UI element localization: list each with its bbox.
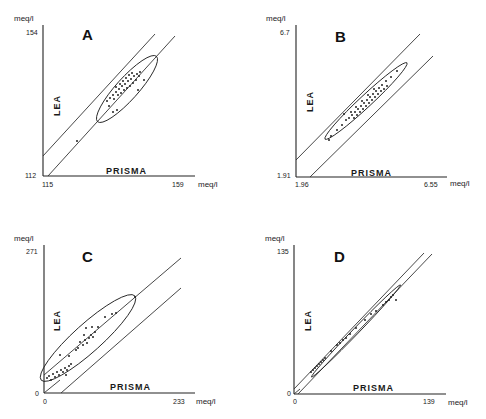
panel-d: meq/l 135 0 0 139 meq/l D PRISMA LEA — [265, 234, 468, 407]
panel-a: meq/l 154 112 115 159 meq/l A PRISMA LEA — [14, 14, 218, 189]
panel-b-x-max: 6.55 — [424, 181, 438, 188]
panel-d-x-unit: meq/l — [448, 398, 468, 407]
panel-b-letter: B — [335, 28, 346, 45]
panel-c-points — [46, 296, 136, 381]
panel-b: meq/l 6.7 1.91 1.96 6.55 meq/l B PRISMA … — [266, 14, 470, 188]
panel-a-y-unit: meq/l — [14, 14, 34, 23]
panel-d-y-unit: meq/l — [265, 234, 285, 243]
panel-a-y-min: 112 — [25, 172, 36, 179]
panel-b-y-label: LEA — [305, 91, 315, 112]
panel-a-x-max: 159 — [172, 181, 184, 188]
panel-b-x-min: 1.96 — [295, 181, 309, 188]
panel-a-x-label: PRISMA — [106, 166, 147, 176]
panel-a-upper-limit-line — [43, 34, 155, 156]
panel-c: meq/l 271 0 0 233 meq/l C PRISMA LEA — [14, 234, 216, 406]
figure-canvas: meq/l 154 112 115 159 meq/l A PRISMA LEA — [0, 0, 486, 419]
panel-c-y-label: LEA — [52, 310, 62, 331]
panel-d-x-label: PRISMA — [353, 383, 394, 393]
panel-c-x-min: 0 — [43, 398, 47, 405]
panel-a-x-min: 115 — [42, 181, 53, 188]
panel-b-y-max: 6.7 — [280, 29, 290, 36]
panel-a-lower-limit-line — [48, 36, 175, 176]
panel-d-x-min: 0 — [293, 398, 297, 405]
panel-d-upper-limit-line — [294, 253, 424, 389]
panel-c-upper-limit-line — [44, 258, 181, 375]
panel-a-y-label: LEA — [52, 95, 62, 116]
panel-c-y-min: 0 — [35, 390, 39, 397]
panel-c-x-unit: meq/l — [196, 397, 216, 406]
panel-c-y-max: 271 — [26, 248, 38, 255]
panel-c-origin-segment — [44, 380, 60, 393]
panel-a-letter: A — [82, 26, 93, 43]
panel-b-points — [328, 70, 398, 141]
panel-c-y-unit: meq/l — [14, 234, 34, 243]
panel-c-x-label: PRISMA — [110, 382, 151, 392]
panel-c-lower-limit-line — [61, 288, 181, 393]
panel-d-ellipse — [309, 283, 402, 379]
panel-a-x-unit: meq/l — [198, 180, 218, 189]
panel-d-x-max: 139 — [423, 398, 435, 405]
panel-d-y-max: 135 — [277, 248, 289, 255]
panel-a-y-max: 154 — [26, 29, 38, 36]
panel-b-lower-limit-line — [310, 56, 433, 177]
panel-d-y-label: LEA — [303, 310, 313, 331]
panel-b-y-unit: meq/l — [266, 14, 286, 23]
panel-d-letter: D — [334, 248, 345, 265]
panel-c-x-max: 233 — [173, 398, 185, 405]
panel-c-letter: C — [82, 248, 93, 265]
panel-d-y-min: 0 — [287, 390, 291, 397]
panel-b-y-min: 1.91 — [277, 172, 291, 179]
panel-b-x-unit: meq/l — [450, 179, 470, 188]
